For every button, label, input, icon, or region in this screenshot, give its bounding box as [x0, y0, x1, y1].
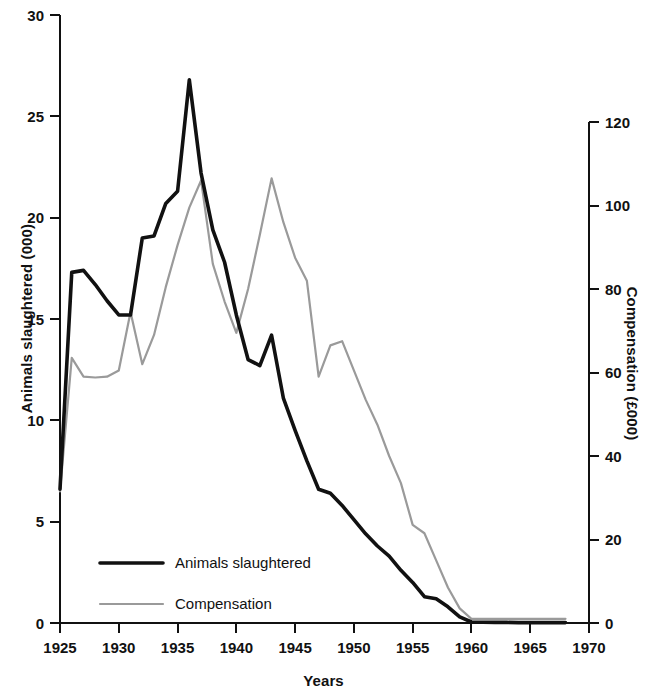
legend-label-animals-slaughtered: Animals slaughtered — [175, 554, 311, 571]
x-axis-tick-label: 1940 — [220, 639, 253, 656]
x-axis-tick-label: 1930 — [102, 639, 135, 656]
x-axis-title: Years — [0, 672, 647, 689]
y-axis-left-title: Animals slaughtered (000) — [18, 199, 35, 439]
y-axis-right-tick-label: 80 — [605, 281, 622, 298]
y-axis-right-title: Compensation (£000) — [624, 244, 641, 484]
x-axis-tick-label: 1950 — [337, 639, 370, 656]
chart-plot-area: 051015202530 020406080100120 19251930193… — [0, 0, 647, 698]
chart-container: 051015202530 020406080100120 19251930193… — [0, 0, 647, 698]
y-axis-right-tick-label: 40 — [605, 448, 622, 465]
x-axis-tick-label: 1925 — [43, 639, 76, 656]
y-axis-right-tick-label: 120 — [605, 114, 630, 131]
x-axis-tick-label: 1960 — [455, 639, 488, 656]
x-axis-tick-label: 1945 — [278, 639, 311, 656]
x-axis-tick-label: 1955 — [396, 639, 429, 656]
y-axis-left-tick-label: 0 — [36, 615, 44, 632]
x-axis-tick-label: 1935 — [161, 639, 194, 656]
y-axis-right-tick-label: 0 — [605, 615, 613, 632]
y-axis-left-tick-label: 5 — [36, 513, 44, 530]
y-axis-right-tick-label: 20 — [605, 531, 622, 548]
y-axis-right-tick-label: 100 — [605, 197, 630, 214]
x-axis-tick-label: 1970 — [572, 639, 605, 656]
y-axis-left-tick-label: 25 — [27, 108, 44, 125]
legend-label-compensation: Compensation — [175, 595, 272, 612]
y-axis-right-tick-label: 60 — [605, 364, 622, 381]
chart-background — [0, 0, 647, 698]
x-axis-tick-label: 1965 — [514, 639, 547, 656]
y-axis-left-tick-label: 30 — [27, 7, 44, 24]
